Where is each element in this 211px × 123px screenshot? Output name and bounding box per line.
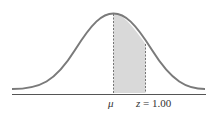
z-label: z = 1.00	[136, 97, 171, 109]
shaded-area	[114, 14, 146, 94]
mean-label: μ	[108, 97, 114, 109]
normal-curve-diagram	[0, 0, 211, 123]
z-value: = 1.00	[140, 97, 171, 109]
bell-curve	[12, 14, 205, 90]
